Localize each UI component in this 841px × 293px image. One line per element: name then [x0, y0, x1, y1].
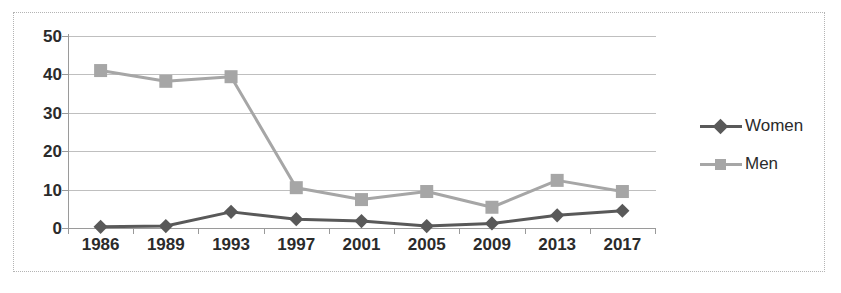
- data-point-women-2013: [550, 208, 564, 222]
- legend-label-women: Women: [742, 116, 803, 136]
- data-point-women-1997: [289, 212, 303, 226]
- chart-container: 01020304050 1986198919931997200120052009…: [0, 0, 841, 293]
- data-point-women-2001: [354, 214, 368, 228]
- data-point-men-2009: [485, 201, 498, 214]
- data-point-women-2009: [485, 216, 499, 230]
- data-point-men-2001: [355, 193, 368, 206]
- data-point-women-1993: [224, 205, 238, 219]
- data-point-women-1986: [94, 220, 108, 234]
- data-point-men-1989: [159, 75, 172, 88]
- legend-entry-women[interactable]: Women: [700, 107, 820, 145]
- data-point-men-2013: [551, 174, 564, 187]
- chart-legend: Women Men: [700, 107, 820, 183]
- data-point-women-1989: [159, 219, 173, 233]
- series-line-men: [101, 71, 623, 208]
- legend-entry-men[interactable]: Men: [700, 145, 820, 183]
- data-point-women-2017: [615, 204, 629, 218]
- data-point-women-2005: [420, 219, 434, 233]
- legend-marker-women-icon: [700, 118, 742, 134]
- data-point-men-1997: [290, 181, 303, 194]
- data-point-men-2017: [616, 185, 629, 198]
- data-point-men-1986: [94, 64, 107, 77]
- data-point-men-1993: [225, 70, 238, 83]
- legend-label-men: Men: [742, 154, 778, 174]
- data-point-men-2005: [420, 185, 433, 198]
- legend-marker-men-icon: [700, 156, 742, 172]
